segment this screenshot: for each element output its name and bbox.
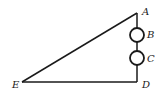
geometry-diagram: A B C D E [0, 0, 163, 101]
circle-b [130, 28, 144, 42]
circle-c [130, 51, 144, 65]
label-e: E [11, 79, 20, 90]
segment-ae [22, 13, 137, 82]
label-a: A [141, 6, 149, 17]
label-b: B [146, 29, 154, 40]
label-c: C [147, 53, 155, 64]
label-d: D [141, 79, 150, 90]
